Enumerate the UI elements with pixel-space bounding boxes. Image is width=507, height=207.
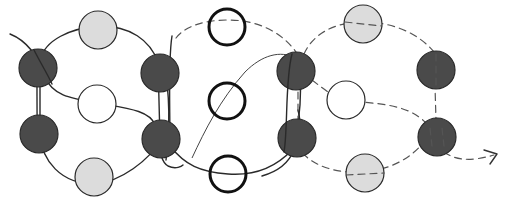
dark-node-center-left-bottom — [142, 120, 180, 158]
light-node-right-bottom — [346, 154, 384, 192]
bold-node-center-top — [209, 9, 245, 45]
dark-node-right-bottom — [418, 118, 456, 156]
dark-node-center-left-top — [141, 54, 179, 92]
bold-node-center-middle — [209, 83, 245, 119]
dashed-exit-path — [444, 152, 494, 159]
dark-node-center-right-top — [277, 52, 315, 90]
white-node-left-middle — [78, 85, 116, 123]
diagram-canvas — [0, 0, 507, 207]
light-node-left-bottom — [75, 158, 113, 196]
light-node-left-top — [79, 11, 117, 49]
dashed-right-cell-loop — [302, 22, 436, 172]
dashed-top-arc — [176, 20, 296, 52]
lattice-diagram — [0, 0, 507, 207]
white-node-right-middle — [327, 81, 365, 119]
nodes-group — [19, 5, 456, 196]
dark-node-left-bottom — [20, 115, 58, 153]
